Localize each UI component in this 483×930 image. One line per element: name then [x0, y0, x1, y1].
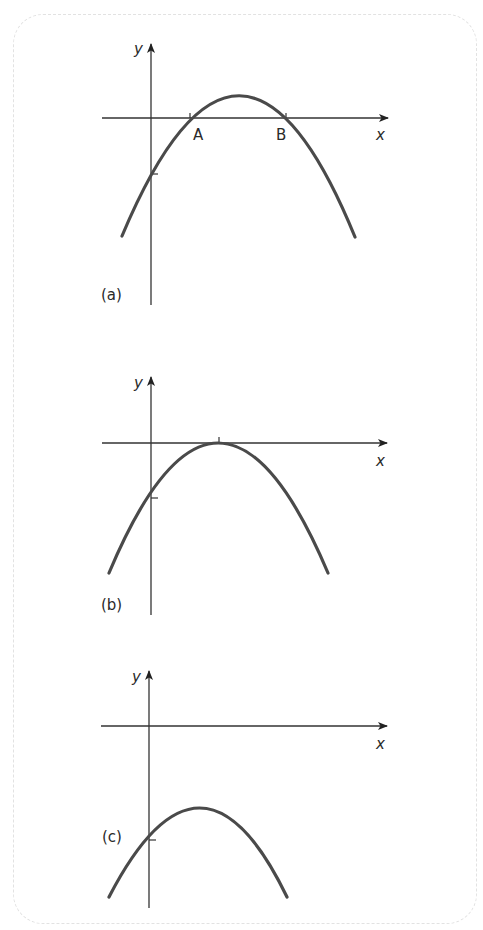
root-label-a: A — [193, 126, 204, 144]
parabola-curve — [109, 808, 287, 897]
panel-a: y x A B (a) — [101, 40, 388, 305]
root-label-b: B — [276, 126, 286, 144]
y-axis-label: y — [133, 40, 144, 58]
parabola-curve — [109, 443, 328, 573]
panel-c: y x (c) — [101, 668, 387, 908]
panel-label: (a) — [101, 286, 122, 304]
x-axis-label: x — [375, 126, 385, 144]
x-axis-label: x — [375, 452, 385, 470]
parabola-figure: y x A B (a) y x (b) y x (c) — [0, 0, 483, 930]
y-axis-label: y — [133, 374, 144, 392]
panel-label: (b) — [101, 596, 122, 614]
panel-b: y x (b) — [101, 374, 387, 615]
panel-label: (c) — [102, 828, 122, 846]
parabola-curve — [122, 96, 355, 237]
x-axis-label: x — [375, 735, 385, 753]
y-axis-label: y — [131, 668, 142, 686]
